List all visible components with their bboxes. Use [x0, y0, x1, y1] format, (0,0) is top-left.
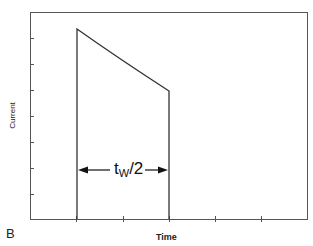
anno-subscript: W	[119, 167, 129, 179]
y-axis-label: Current	[8, 92, 17, 140]
anno-suffix: /2	[129, 159, 143, 178]
arrowhead-left-icon	[78, 167, 88, 174]
panel-label: B	[6, 226, 15, 241]
x-axis-label: Time	[156, 232, 177, 242]
arrowhead-right-icon	[158, 167, 168, 174]
chart-canvas	[0, 0, 313, 246]
current-pulse-line	[77, 29, 169, 219]
pulse-width-annotation: tW/2	[112, 160, 145, 182]
